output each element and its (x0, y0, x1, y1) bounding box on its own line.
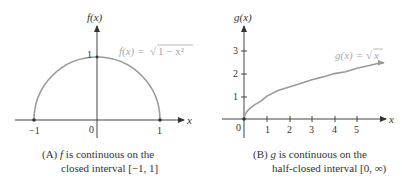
panel-b-tick-0: 0 (236, 122, 241, 133)
panel-b-curve-arrowhead (378, 60, 385, 66)
panel-b-tick-2: 2 (287, 124, 292, 135)
panel-b-tick-5: 5 (354, 124, 359, 135)
panel-b-graph: x g(x) 0 1 2 3 4 5 1 2 3 g(x) = √ x (222, 11, 394, 138)
panel-a-tick-1: 1 (157, 125, 162, 136)
panel-b-tick-1: 1 (265, 124, 270, 135)
svg-text:√: √ (150, 45, 157, 57)
panel-a-y-axis-label: f(x) (87, 11, 103, 24)
panel-a-caption: (A) f is continuous on the closed interv… (42, 147, 158, 175)
panel-b-caption-line2: half-closed interval [0, ∞) (253, 162, 386, 174)
panel-a-y-intercept-point (96, 56, 99, 59)
panel-a-caption-line1: is continuous on the (63, 148, 154, 160)
panel-b-sqrt-curve (244, 63, 384, 119)
panel-b-ytick-2: 2 (233, 68, 238, 79)
svg-text:f(x) =: f(x) = (119, 45, 144, 58)
panel-b-caption: (B) g is continuous on the half-closed i… (253, 147, 386, 175)
panel-a-function-label: f(x) = √ 1 − x² (119, 45, 193, 58)
svg-text:√: √ (366, 49, 373, 61)
panel-a-graph: x f(x) −1 0 1 1 f(x) = √ 1 − x² (15, 11, 193, 138)
panel-a-endpoint-left (32, 118, 36, 122)
panel-a-tick-neg1: −1 (29, 125, 40, 136)
panel-b-x-axis-label: x (388, 113, 394, 125)
panel-a-caption-tag: (A) (42, 148, 57, 160)
panel-a-endpoint-right (158, 118, 162, 122)
panel-b-y-axis-label: g(x) (234, 11, 252, 24)
panel-a-ytick-1: 1 (87, 49, 92, 60)
svg-text:1 − x²: 1 − x² (158, 45, 185, 57)
panel-b-caption-tag: (B) (253, 148, 268, 160)
svg-text:x: x (373, 49, 379, 61)
panel-a-tick-0: 0 (89, 124, 94, 135)
panel-b-function-label: g(x) = √ x (335, 49, 383, 62)
panel-a-x-axis-label: x (186, 114, 192, 126)
panel-b-caption-line1: is continuous on the (276, 148, 367, 160)
panel-b-tick-4: 4 (332, 124, 337, 135)
panel-b-ytick-1: 1 (233, 91, 238, 102)
svg-text:g(x) =: g(x) = (335, 49, 363, 62)
panel-b-ytick-3: 3 (233, 45, 238, 56)
panel-b-tick-3: 3 (309, 124, 314, 135)
panel-a-caption-line2: closed interval [−1, 1] (42, 162, 158, 174)
panel-b-endpoint-origin (242, 117, 246, 121)
